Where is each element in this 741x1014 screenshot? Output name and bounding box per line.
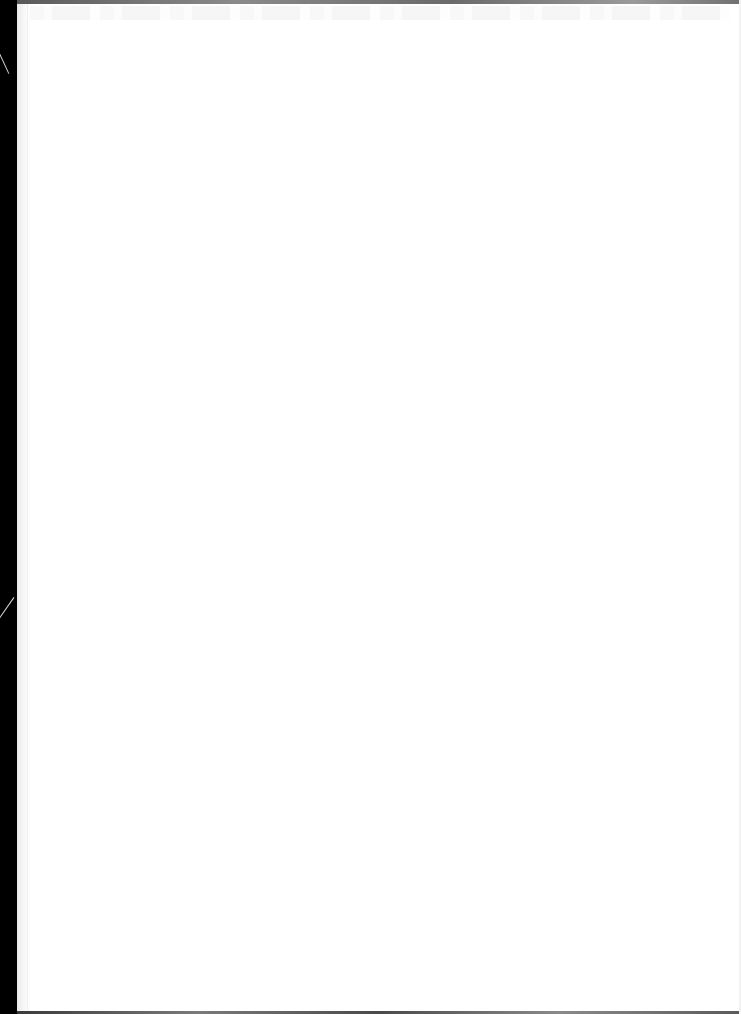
gutter-shadow — [17, 0, 31, 1014]
bleed-through-text — [30, 6, 730, 20]
top-page-edge — [17, 0, 741, 4]
binding-crease-mark — [0, 46, 9, 74]
book-binding-edge — [0, 0, 17, 1014]
scanned-page — [0, 0, 741, 1014]
gutter-line — [27, 0, 28, 1014]
binding-crease-mark — [0, 597, 14, 619]
page-body — [40, 30, 720, 990]
